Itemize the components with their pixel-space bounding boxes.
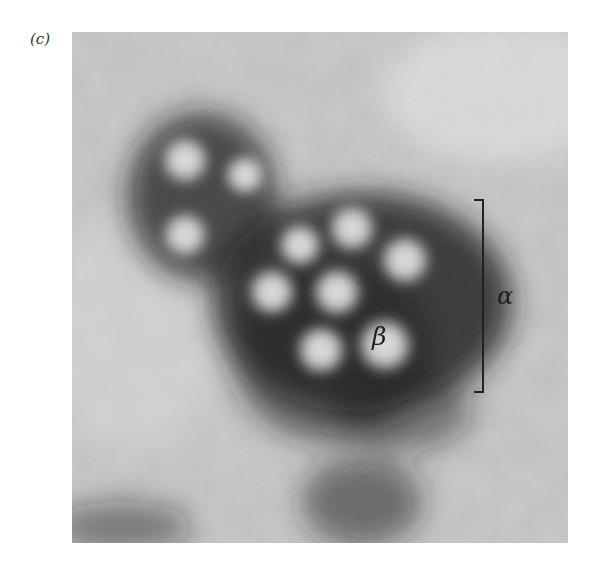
- beta-label: β: [372, 322, 386, 351]
- panel-label: (c): [30, 30, 50, 48]
- electron-micrograph: [72, 32, 568, 543]
- alpha-label: α: [497, 282, 513, 310]
- size-bracket: [474, 199, 484, 393]
